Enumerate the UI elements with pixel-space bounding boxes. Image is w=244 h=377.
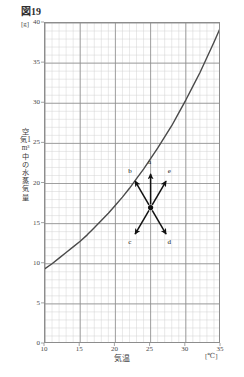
axis-tick-marks xyxy=(0,0,244,377)
x-axis-unit-label: [℃] xyxy=(205,352,218,360)
